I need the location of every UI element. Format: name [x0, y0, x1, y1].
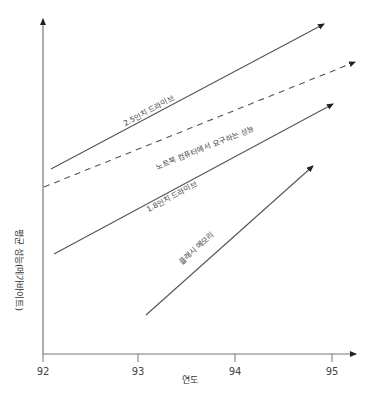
series-lines: 2.5인치 드라이브노트북 컴퓨터에서 요구하는 성능1.8인치 드라이브플래시… — [44, 24, 355, 315]
x-axis-title: 연도 — [182, 375, 198, 385]
x-tick-label: 94 — [229, 366, 242, 377]
y-axis-title: 평균 성능(메가바이트) — [14, 229, 24, 311]
x-tick-label: 93 — [132, 366, 145, 377]
series-label: 플래시 메모리 — [177, 230, 216, 266]
trend-arrow — [54, 104, 333, 254]
trend-arrow — [146, 166, 313, 315]
x-tick-label: 92 — [37, 366, 50, 377]
trend-arrow — [51, 24, 324, 169]
series-label: 1.8인치 드라이브 — [144, 179, 198, 214]
dashed-trend-arrow — [44, 62, 355, 187]
series-label: 노트북 컴퓨터에서 요구하는 성능 — [154, 123, 255, 172]
series-line: 1.8인치 드라이브 — [54, 104, 333, 254]
performance-trend-diagram: 92939495 연도 평균 성능(메가바이트) 2.5인치 드라이브노트북 컴… — [0, 0, 371, 397]
series-line: 노트북 컴퓨터에서 요구하는 성능 — [44, 62, 355, 187]
series-line: 플래시 메모리 — [146, 166, 313, 315]
x-axis-ticks: 92939495 — [37, 354, 339, 377]
series-line: 2.5인치 드라이브 — [51, 24, 324, 169]
series-label: 2.5인치 드라이브 — [121, 93, 175, 128]
x-tick-label: 95 — [326, 366, 339, 377]
